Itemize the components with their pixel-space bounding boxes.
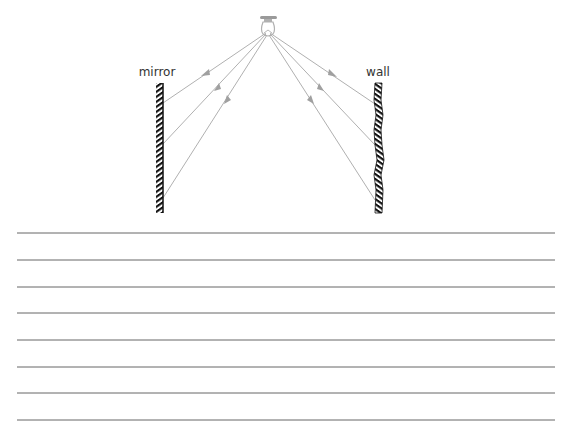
arrowhead-icon (201, 69, 210, 76)
ray-mirror-2 (163, 34, 266, 144)
arrowhead-icon (214, 83, 221, 91)
mirror-label: mirror (139, 65, 176, 79)
wall-surface (374, 83, 384, 213)
arrowhead-icon (224, 95, 231, 104)
rays-to-wall (269, 33, 375, 200)
writing-lines (17, 233, 555, 420)
wall-label: wall (366, 65, 390, 79)
ray-wall-3 (269, 35, 375, 200)
ray-mirror-3 (163, 35, 267, 198)
arrow-icons-right (307, 69, 337, 104)
mirror-surface (156, 83, 163, 213)
light-bulb-icon (260, 16, 277, 36)
diagram-canvas: mirror wall (0, 0, 568, 442)
reflection-diagram: mirror wall (0, 0, 568, 442)
ray-mirror-1 (163, 33, 266, 103)
arrowhead-icon (328, 69, 337, 77)
rays-to-mirror (163, 33, 267, 198)
ray-wall-1 (270, 33, 375, 104)
